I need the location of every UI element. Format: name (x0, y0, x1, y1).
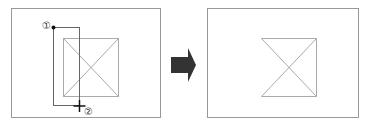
point-2-label: ② (84, 106, 93, 117)
right-arrow-icon (171, 48, 196, 82)
after-panel (208, 9, 359, 118)
point-1-marker (52, 26, 56, 30)
before-frame (12, 9, 161, 118)
before-square-with-diagonals (64, 39, 119, 97)
after-frame (208, 9, 359, 118)
after-trimmed-shape (262, 39, 317, 97)
point-1-label: ① (42, 20, 51, 31)
before-panel: ① ② (12, 9, 161, 118)
diagram-canvas: ① ② (0, 0, 368, 129)
